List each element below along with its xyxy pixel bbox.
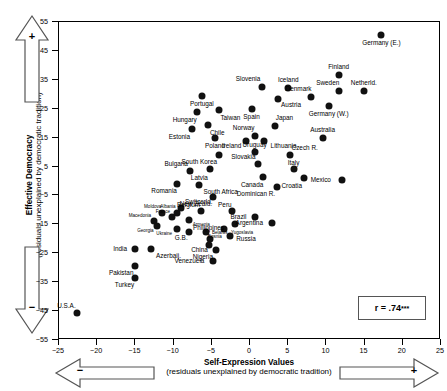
x-positive-arrow-icon: + [338,358,440,388]
point-label: Peru [218,201,232,207]
point-label: Ireland [222,143,242,149]
y-axis-tick-label: −5 [8,190,48,199]
point-label: Latvia [191,174,208,180]
x-axis-tick [58,339,59,345]
point-label: Belarus [212,231,228,236]
point-label: Portugal [190,101,214,107]
point-label: Germany (W.) [309,111,349,117]
point-label: Spain [243,114,259,120]
point-label: Turkey [115,281,134,287]
y-axis-tick [52,281,58,282]
x-axis-tick-label: 0 [229,346,269,355]
y-axis-tick-label: 45 [8,45,48,54]
y-negative-arrow-icon: − [14,245,50,335]
point-label: Croatia [281,183,302,189]
point-label: Taiwan [220,115,240,121]
x-axis-tick [402,339,403,345]
point-label: Macedonia [129,214,151,219]
x-axis-tick-label: −5 [191,346,231,355]
point-label: Bulgaria [164,161,187,167]
y-axis-tick-label: −25 [8,248,48,257]
point-label: Ukraine [156,232,172,237]
point-labels-layer: Germany (E.)FinlandNetherld.SwedenIcelan… [59,22,439,338]
point-label: Slovenia [236,76,261,82]
point-label: Germany (E.) [362,40,400,46]
point-label: Estonia [169,134,190,140]
x-axis-tick [211,339,212,345]
point-label: Dominican R. [237,190,275,196]
x-negative-sign: − [68,364,92,376]
y-axis-tick [52,21,58,22]
y-axis-tick [52,108,58,109]
x-axis-tick [173,339,174,345]
point-label: Italy [288,159,300,165]
correlation-value: r = .74 [375,303,401,313]
point-label: Iceland [278,77,299,83]
y-axis-tick-label: 55 [8,17,48,26]
point-label: Canada [241,182,263,188]
scatter-plot-figure: Effective Democracy (residuals unexplain… [0,0,447,391]
y-axis-tick-label: 15 [8,132,48,141]
y-axis-tick [52,194,58,195]
x-positive-sign: + [402,364,426,376]
y-axis-tick [52,310,58,311]
x-axis-tick-label: 10 [305,346,345,355]
x-axis-tick-label: −15 [114,346,154,355]
point-label: Uruguay [243,142,267,148]
y-axis-tick [52,252,58,253]
x-negative-arrow-icon: − [54,358,156,388]
significance-stars: *** [401,305,409,312]
x-axis-tick [364,339,365,345]
y-axis-tick-label: −15 [8,219,48,228]
point-label: Denmark [286,86,312,92]
y-axis-tick-label: 25 [8,103,48,112]
point-label: Pakistan [109,270,134,276]
point-label: Netherld. [351,80,377,86]
point-label: Romania [151,187,177,193]
y-positive-arrow-icon: + [14,14,50,104]
point-label: Russia [236,235,256,241]
point-label: Mexico [311,176,331,182]
point-label: Sweden [316,80,339,86]
y-axis-tick [52,50,58,51]
point-label: G.B. [175,235,188,241]
correlation-annotation: r = .74*** [358,296,426,320]
point-label: Georgia [137,229,153,234]
point-label: South Africa [203,189,237,195]
y-axis-tick-label: −45 [8,306,48,315]
point-label: Hungary [173,117,197,123]
y-axis-tick-label: −55 [8,335,48,344]
point-label: Belgium [177,201,200,207]
x-axis-tick [287,339,288,345]
y-axis-tick-label: −35 [8,277,48,286]
x-axis-tick-label: 20 [382,346,422,355]
x-axis-tick [134,339,135,345]
x-axis-tick-label: −25 [38,346,78,355]
point-label: Chile [210,130,225,136]
y-axis-tick-label: 5 [8,161,48,170]
plot-area: Germany (E.)FinlandNetherld.SwedenIcelan… [58,21,440,339]
x-axis-tick-label: 15 [344,346,384,355]
x-axis-tick-label: 25 [420,346,447,355]
y-axis-tick [52,166,58,167]
point-label: Argentina [236,220,263,226]
point-label: Slovakia [231,154,255,160]
x-axis-tick-label: −20 [76,346,116,355]
point-label: U.S.A. [57,303,75,309]
x-axis-tick [249,339,250,345]
y-axis-tick [52,137,58,138]
point-label: Australia [310,126,335,132]
point-label: Japan [276,115,293,121]
y-axis-tick [52,223,58,224]
x-axis-tick [325,339,326,345]
point-label: France [156,209,170,214]
point-label: Czech R. [292,145,318,151]
point-label: India [113,246,127,252]
x-axis-tick [96,339,97,345]
y-positive-sign: + [14,30,50,42]
point-label: Venezuela [175,257,205,263]
point-label: Norway [233,125,255,131]
y-axis-tick-label: 35 [8,74,48,83]
point-label: Austria [281,102,301,108]
x-axis-tick-label: −10 [153,346,193,355]
